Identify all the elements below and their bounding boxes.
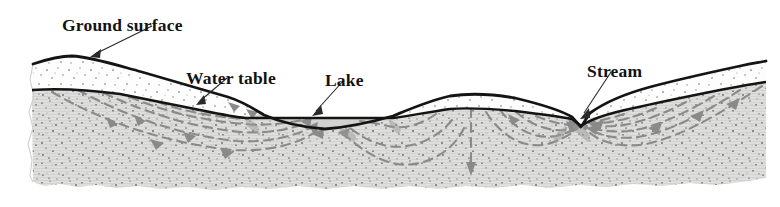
cross-section-canvas: Ground surface Water table Lake Stream xyxy=(0,0,780,207)
label-ground-surface: Ground surface xyxy=(62,15,183,35)
groundwater-flow-diagram: Ground surface Water table Lake Stream xyxy=(0,0,780,207)
label-water-table: Water table xyxy=(186,68,276,88)
label-stream: Stream xyxy=(587,61,643,81)
label-lake: Lake xyxy=(325,70,364,90)
